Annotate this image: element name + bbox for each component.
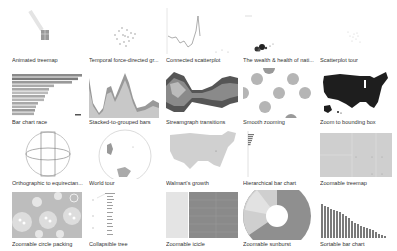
card-title: Orthographic to equirectan...: [12, 180, 86, 186]
card-title: The wealth & health of nati...: [243, 57, 317, 63]
gallery-card-scatterplot-tour[interactable]: Scatterplot tour: [320, 6, 392, 66]
gallery-card-zoomable-treemap[interactable]: Zoomable treemap: [320, 129, 392, 189]
card-title: World tour: [89, 180, 163, 186]
card-title: Zoomable circle packing: [12, 241, 86, 247]
gallery-card-circle-packing[interactable]: Zoomable circle packing: [12, 190, 84, 250]
thumbnail-us-map-dark: [320, 68, 392, 118]
card-title: Temporal force-directed gr...: [89, 57, 163, 63]
thumbnail-collapsible-tree: [89, 190, 161, 240]
thumbnail-orthographic: [12, 129, 84, 179]
thumbnail-smooth-zooming: [243, 68, 315, 118]
thumbnail-sunburst: [243, 190, 315, 240]
thumbnail-icicle: [166, 190, 238, 240]
gallery-card-streamgraph[interactable]: Streamgraph transitions: [166, 68, 238, 128]
card-title: Collapsible tree: [89, 241, 163, 247]
card-title: Walmart's growth: [166, 180, 240, 186]
gallery-card-zoom-bounding-box[interactable]: Zoom to bounding box: [320, 68, 392, 128]
thumbnail-scatterplot-tour: [320, 6, 392, 56]
thumbnail-wealth-health: [243, 6, 315, 56]
thumbnail-sortable-bar: [320, 190, 392, 240]
card-title: Smooth zooming: [243, 119, 317, 125]
gallery-card-walmart-growth[interactable]: Walmart's growth: [166, 129, 238, 189]
thumbnail-hier-bar: [243, 129, 315, 179]
gallery-card-collapsible-tree[interactable]: Collapsible tree: [89, 190, 161, 250]
gallery-card-connected-scatterplot[interactable]: Connected scatterplot: [166, 6, 238, 66]
thumbnail-stacked-grouped: [89, 68, 161, 118]
thumbnail-streamgraph: [166, 68, 238, 118]
thumbnail-zoomable-treemap: [320, 129, 392, 179]
thumbnail-circle-packing: [12, 190, 84, 240]
thumbnail-force-directed: [89, 6, 161, 56]
card-title: Connected scatterplot: [166, 57, 240, 63]
gallery-card-zoomable-sunburst[interactable]: Zoomable sunburst: [243, 190, 315, 250]
thumbnail-bar-chart-race: [12, 68, 84, 118]
gallery-card-smooth-zooming[interactable]: Smooth zooming: [243, 68, 315, 128]
card-title: Hierarchical bar chart: [243, 180, 317, 186]
card-title: Animated treemap: [12, 57, 86, 63]
gallery-card-hierarchical-bar[interactable]: Hierarchical bar chart: [243, 129, 315, 189]
gallery-card-sortable-bar[interactable]: Sortable bar chart: [320, 190, 392, 250]
card-title: Scatterplot tour: [320, 57, 394, 63]
gallery-card-force-directed[interactable]: Temporal force-directed gr...: [89, 6, 161, 66]
gallery-card-wealth-health[interactable]: The wealth & health of nati...: [243, 6, 315, 66]
card-title: Zoomable sunburst: [243, 241, 317, 247]
card-title: Bar chart race: [12, 119, 86, 125]
gallery-card-world-tour[interactable]: World tour: [89, 129, 161, 189]
card-title: Sortable bar chart: [320, 241, 394, 247]
card-title: Stacked-to-grouped bars: [89, 119, 163, 125]
thumbnail-animated-treemap: [12, 6, 84, 56]
gallery-card-animated-treemap[interactable]: Animated treemap: [12, 6, 84, 66]
gallery-card-stacked-grouped[interactable]: Stacked-to-grouped bars: [89, 68, 161, 128]
card-title: Streamgraph transitions: [166, 119, 240, 125]
card-title: Zoomable icicle: [166, 241, 240, 247]
gallery-card-bar-chart-race[interactable]: Bar chart race: [12, 68, 84, 128]
gallery-card-orthographic[interactable]: Orthographic to equirectan...: [12, 129, 84, 189]
thumbnail-connected-scatterplot: [166, 6, 238, 56]
card-title: Zoomable treemap: [320, 180, 394, 186]
card-title: Zoom to bounding box: [320, 119, 394, 125]
thumbnail-world-tour: [89, 129, 161, 179]
gallery-card-zoomable-icicle[interactable]: Zoomable icicle: [166, 190, 238, 250]
thumbnail-us-map-light: [166, 129, 238, 179]
